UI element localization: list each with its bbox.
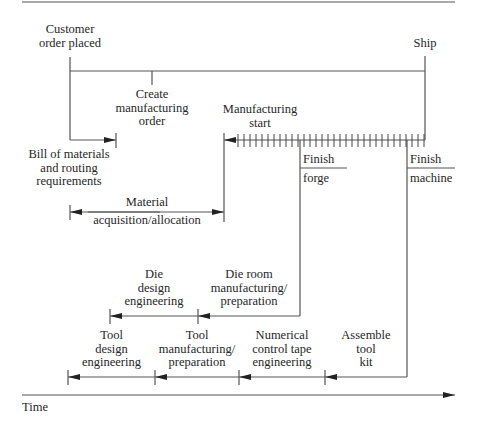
label-line: Die room: [198, 268, 300, 282]
label-line: Create: [102, 88, 202, 102]
create-order-label: Create manufacturing order: [102, 88, 202, 129]
label-line: Numerical: [239, 329, 325, 343]
label-line: Manufacturing: [210, 103, 310, 117]
label-line: Tool: [155, 329, 239, 343]
label-line: engineering: [239, 356, 325, 370]
tool-design-label: Tool design engineering: [68, 329, 155, 370]
finish-forge-label: Finish forge: [303, 153, 334, 185]
label-line: preparation: [155, 356, 239, 370]
label-line: Customer: [22, 23, 118, 37]
label-line: Assemble: [325, 329, 407, 343]
label-line: kit: [325, 356, 407, 370]
time-axis-label: Time: [22, 401, 48, 415]
label-line: tool: [325, 343, 407, 357]
label-line: Material: [80, 196, 214, 210]
manufacturing-start-label: Manufacturing start: [210, 103, 310, 130]
label-line: forge: [303, 172, 334, 186]
label-line: manufacturing/: [155, 343, 239, 357]
label-line: and routing: [12, 162, 126, 176]
nc-tape-label: Numerical control tape engineering: [239, 329, 325, 370]
ship-label: Ship: [405, 37, 445, 51]
label-line: design: [110, 282, 198, 296]
label-line: Finish: [410, 153, 452, 167]
label-line: order: [102, 115, 202, 129]
label-line: engineering: [68, 356, 155, 370]
label-line: acquisition/allocation: [80, 214, 214, 228]
tool-manufacturing-label: Tool manufacturing/ preparation: [155, 329, 239, 370]
label-line: engineering: [110, 295, 198, 309]
label-line: requirements: [12, 175, 126, 189]
label-line: Die: [110, 268, 198, 282]
label-line: manufacturing/: [198, 282, 300, 296]
label-line: control tape: [239, 343, 325, 357]
label-line: manufacturing: [102, 102, 202, 116]
die-room-label: Die room manufacturing/ preparation: [198, 268, 300, 309]
finish-machine-label: Finish machine: [410, 153, 452, 185]
die-design-label: Die design engineering: [110, 268, 198, 309]
material-label: Material acquisition/allocation: [80, 196, 214, 227]
customer-order-label: Customer order placed: [22, 23, 118, 50]
label-line: machine: [410, 172, 452, 186]
label-line: design: [68, 343, 155, 357]
label-line: Time: [22, 401, 48, 415]
label-line: Tool: [68, 329, 155, 343]
assemble-kit-label: Assemble tool kit: [325, 329, 407, 370]
label-line: order placed: [22, 37, 118, 51]
label-line: preparation: [198, 295, 300, 309]
label-line: Finish: [303, 153, 334, 167]
bill-of-materials-label: Bill of materials and routing requiremen…: [12, 148, 126, 189]
label-line: start: [210, 117, 310, 131]
label-line: Ship: [405, 37, 445, 51]
label-line: Bill of materials: [12, 148, 126, 162]
